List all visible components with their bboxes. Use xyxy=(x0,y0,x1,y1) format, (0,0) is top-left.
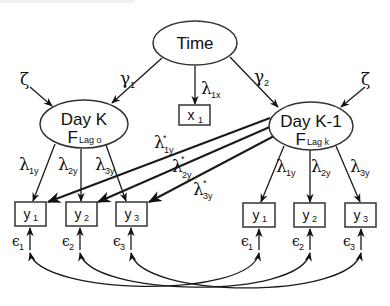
svg-text:1: 1 xyxy=(248,242,253,252)
label-right-lambda-2y: λ 2y xyxy=(311,156,331,178)
svg-text:y: y xyxy=(125,206,132,222)
covariance-e3 xyxy=(131,253,361,288)
svg-text:1: 1 xyxy=(198,115,203,125)
sem-path-diagram: Time Day K F Lag o Day K-1 F Lag k x 1 y… xyxy=(0,0,390,306)
observed-left-y2: y 2 xyxy=(66,202,97,226)
latent-time: Time xyxy=(153,21,237,65)
label-right-lambda-3y: λ 3y xyxy=(350,156,370,178)
svg-text:*: * xyxy=(181,154,185,164)
observed-right-y3: y 3 xyxy=(345,203,376,227)
svg-text:2: 2 xyxy=(84,213,89,223)
svg-text:F: F xyxy=(68,128,78,147)
observed-left-y1: y 1 xyxy=(15,202,46,226)
svg-text:3y: 3y xyxy=(203,191,213,201)
svg-text:y: y xyxy=(24,206,31,222)
svg-text:*: * xyxy=(163,133,167,143)
label-error-left-1: ϵ 1 xyxy=(12,233,24,252)
label-gamma1: γ 1 xyxy=(120,68,135,90)
svg-text:y: y xyxy=(303,207,310,223)
svg-text:3: 3 xyxy=(350,242,355,252)
svg-text:3: 3 xyxy=(134,213,139,223)
observed-right-y1: y 1 xyxy=(243,203,275,227)
svg-text:1y: 1y xyxy=(286,168,296,178)
svg-text:1x: 1x xyxy=(211,90,221,100)
label-cross-lambda-2y: λ * 2y xyxy=(172,154,192,180)
svg-text:Lag o: Lag o xyxy=(79,135,102,145)
label-zeta-right: ζ xyxy=(361,69,370,89)
observed-left-y3: y 3 xyxy=(116,202,147,226)
covariance-e2 xyxy=(80,253,310,287)
path-zeta-right xyxy=(341,87,365,107)
svg-text:1: 1 xyxy=(33,213,38,223)
label-cross-lambda-1y: λ * 1y xyxy=(154,132,174,155)
svg-text:2y: 2y xyxy=(321,168,331,178)
label-error-right-3: ϵ 3 xyxy=(343,233,355,252)
path-cross-lambda-2y xyxy=(98,126,272,202)
svg-text:3: 3 xyxy=(120,242,125,252)
svg-text:1y: 1y xyxy=(29,166,39,176)
observed-right-y2: y 2 xyxy=(294,203,325,227)
svg-text:Day K-1: Day K-1 xyxy=(280,112,341,131)
latent-day-k: Day K F Lag o xyxy=(40,100,128,148)
svg-text:2: 2 xyxy=(312,214,317,224)
svg-text:Time: Time xyxy=(176,34,213,53)
svg-text:y: y xyxy=(75,206,82,222)
svg-text:3y: 3y xyxy=(360,168,370,178)
svg-text:1y: 1y xyxy=(164,145,174,155)
svg-text:2: 2 xyxy=(299,242,304,252)
label-error-right-2: ϵ 2 xyxy=(292,233,304,252)
svg-text:y: y xyxy=(253,207,260,223)
svg-text:2y: 2y xyxy=(68,166,78,176)
path-zeta-left xyxy=(30,87,52,106)
svg-text:x: x xyxy=(188,107,195,123)
label-zeta-left: ζ xyxy=(20,69,29,89)
observed-x1: x 1 xyxy=(179,105,210,125)
svg-text:*: * xyxy=(203,178,207,188)
svg-text:F: F xyxy=(296,130,306,149)
svg-text:2y: 2y xyxy=(182,170,192,180)
label-error-left-3: ϵ 3 xyxy=(113,233,125,252)
svg-text:γ: γ xyxy=(120,68,130,88)
label-lambda-1x: λ 1x xyxy=(201,78,221,100)
label-left-lambda-1y: λ 1y xyxy=(19,154,39,176)
svg-text:1: 1 xyxy=(130,80,135,90)
label-right-lambda-1y: λ 1y xyxy=(276,156,296,178)
svg-text:1: 1 xyxy=(262,214,267,224)
label-cross-lambda-3y: λ * 3y xyxy=(193,178,213,201)
latent-day-k-1: Day K-1 F Lag k xyxy=(269,102,353,150)
svg-text:3: 3 xyxy=(363,214,368,224)
svg-text:Lag k: Lag k xyxy=(307,137,330,147)
label-left-lambda-2y: λ 2y xyxy=(58,154,78,176)
svg-text:Day K: Day K xyxy=(61,110,108,129)
svg-text:2: 2 xyxy=(69,242,74,252)
svg-text:1: 1 xyxy=(19,242,24,252)
svg-text:2: 2 xyxy=(264,78,269,88)
label-error-right-1: ϵ 1 xyxy=(241,233,253,252)
label-error-left-2: ϵ 2 xyxy=(62,233,74,252)
svg-text:3y: 3y xyxy=(105,166,115,176)
svg-text:γ: γ xyxy=(254,66,264,86)
label-gamma2: γ 2 xyxy=(254,66,269,88)
svg-text:y: y xyxy=(354,207,361,223)
label-left-lambda-3y: λ 3y xyxy=(95,154,115,176)
